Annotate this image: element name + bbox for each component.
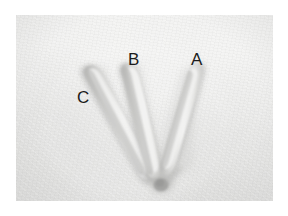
toe-label-c: C: [77, 89, 89, 106]
photo-vignette: [16, 15, 273, 201]
specimen-photograph: A B C: [16, 15, 273, 201]
toe-label-b: B: [128, 51, 139, 68]
toe-label-a: A: [191, 51, 202, 68]
figure-root: A B C: [0, 0, 288, 216]
